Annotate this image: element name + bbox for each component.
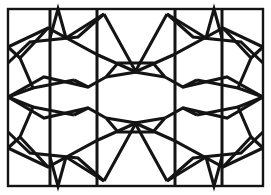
geometric-pattern-figure bbox=[0, 0, 271, 195]
figure-root bbox=[0, 0, 271, 195]
figure-background bbox=[0, 0, 271, 195]
